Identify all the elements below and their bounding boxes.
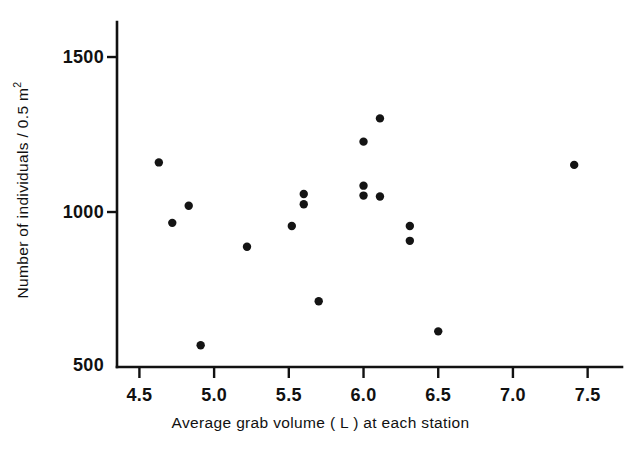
data-point xyxy=(434,327,442,335)
y-axis-title-superscript: 2 xyxy=(12,81,24,87)
y-axis-title-text: Number of individuals / 0.5 m xyxy=(14,88,31,299)
y-axis-ticks xyxy=(107,57,117,212)
x-axis-tick-label: 7.0 xyxy=(500,385,526,406)
x-axis-tick-label: 7.5 xyxy=(575,385,601,406)
data-point xyxy=(570,161,578,169)
x-axis-title: Average grab volume ( L ) at each statio… xyxy=(0,414,641,432)
data-point xyxy=(300,200,308,208)
data-point xyxy=(185,202,193,210)
y-axis-title: Number of individuals / 0.5 m2 xyxy=(14,81,32,298)
data-point xyxy=(359,181,367,189)
axes xyxy=(117,22,622,367)
x-axis-tick-label: 4.5 xyxy=(126,385,152,406)
data-point xyxy=(196,341,204,349)
data-points xyxy=(155,114,579,349)
y-axis-title-container: Number of individuals / 0.5 m2 xyxy=(6,0,40,380)
data-point xyxy=(168,219,176,227)
data-point xyxy=(300,190,308,198)
data-point xyxy=(406,222,414,230)
x-axis-ticks xyxy=(139,367,587,378)
x-axis-tick-label: 6.0 xyxy=(351,385,377,406)
x-axis-tick-label: 5.5 xyxy=(276,385,302,406)
data-point xyxy=(288,222,296,230)
data-point xyxy=(359,137,367,145)
x-axis-tick-label: 6.5 xyxy=(425,385,451,406)
data-point xyxy=(243,243,251,251)
data-point xyxy=(155,158,163,166)
x-axis-tick-label: 5.0 xyxy=(201,385,227,406)
data-point xyxy=(376,114,384,122)
data-point xyxy=(315,297,323,305)
data-point xyxy=(406,237,414,245)
data-point xyxy=(376,192,384,200)
plot-canvas xyxy=(0,0,641,452)
scatter-plot-figure: 50010001500 4.55.05.56.06.57.07.5 Number… xyxy=(0,0,641,452)
data-point xyxy=(359,191,367,199)
